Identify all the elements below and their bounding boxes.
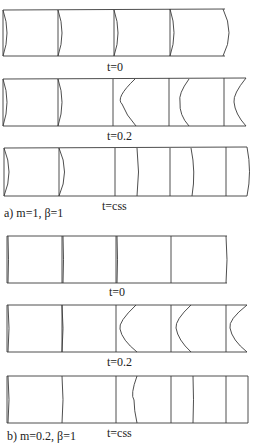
- wave-front: [234, 78, 246, 126]
- front-curve: [114, 10, 118, 56]
- front-curve: [247, 147, 250, 196]
- front-line: [8, 376, 9, 423]
- front-line: [117, 236, 118, 283]
- front-curve: [58, 79, 62, 126]
- time-label: t=0: [107, 60, 123, 74]
- front-curve: [3, 79, 7, 126]
- front-line: [63, 236, 64, 283]
- wave-front: [120, 79, 136, 126]
- front-line: [62, 376, 63, 423]
- front-curve: [58, 10, 62, 56]
- panel-outline: [7, 305, 247, 352]
- front-curve: [191, 148, 194, 196]
- panel-b-t02: [7, 305, 247, 352]
- time-label: t=0: [109, 285, 125, 299]
- front-line: [8, 305, 9, 352]
- time-label: t=css: [102, 199, 127, 213]
- front-curve: [4, 148, 9, 196]
- figure-canvas: t=0 t=0.2 t=css a) m=1, β=1 t=0: [0, 0, 254, 448]
- panel-b-t0: [7, 236, 227, 283]
- front-curve: [137, 148, 139, 196]
- front-line: [8, 236, 9, 283]
- panel-outline: [7, 376, 248, 423]
- front-curve: [170, 9, 174, 56]
- panel-b-tcss: [7, 376, 248, 423]
- front-curve: [59, 148, 65, 196]
- time-label: t=0.2: [107, 355, 132, 369]
- front-line: [193, 376, 194, 423]
- panel-outline: [3, 78, 246, 126]
- front-curve: [133, 376, 137, 423]
- front-line: [226, 236, 227, 283]
- time-label: t=0.2: [107, 129, 132, 143]
- wave-front: [230, 305, 247, 352]
- panel-a-t02: [3, 78, 246, 126]
- wave-front: [180, 79, 189, 126]
- wave-front: [120, 305, 137, 352]
- panel-a-t0: [3, 9, 229, 56]
- front-curve: [223, 9, 229, 56]
- wave-front: [176, 305, 191, 352]
- front-curve: [3, 10, 7, 56]
- caption-b: b) m=0.2, β=1: [7, 429, 76, 443]
- panel-outline: [4, 147, 247, 196]
- panel-a-tcss: [4, 147, 250, 196]
- time-label: t=css: [107, 426, 132, 440]
- front-line: [62, 305, 63, 352]
- caption-a: a) m=1, β=1: [4, 206, 63, 220]
